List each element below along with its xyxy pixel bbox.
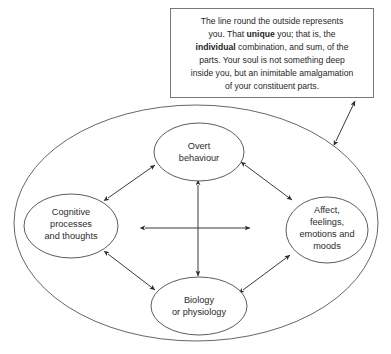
biopsychosocial-diagram: Overt behaviour Cognitive processes and … (0, 0, 391, 354)
callout-line-2-pre: you. That (209, 29, 247, 39)
node-affect-feelings-line3: emotions and (299, 229, 354, 239)
callout-line-5: inside you, but an inimitable amalgamati… (191, 68, 354, 78)
callout-line-1: The line round the outside represents (201, 16, 343, 26)
callout-line-4: parts. Your soul is not something deep (199, 55, 345, 65)
node-affect-feelings-line2: feelings, (310, 217, 344, 227)
callout-emphasis-unique: unique (247, 29, 275, 39)
node-affect-feelings-line1: Affect, (314, 205, 340, 215)
node-cognitive-processes[interactable]: Cognitive processes and thoughts (24, 194, 118, 258)
node-affect-feelings[interactable]: Affect, feelings, emotions and moods (286, 197, 368, 263)
callout-line-6: of your constituent parts. (225, 81, 319, 91)
connector-cognitive-overt (108, 165, 155, 198)
connector-cognitive-biology (108, 254, 155, 290)
node-cognitive-processes-line1: Cognitive (52, 207, 90, 217)
callout-box: The line round the outside represents yo… (171, 9, 374, 98)
node-overt-behaviour-line2: behaviour (179, 153, 219, 163)
node-cognitive-processes-line3: and thoughts (44, 231, 98, 241)
node-biology-physiology-line2: or physiology (172, 307, 227, 317)
node-biology-physiology[interactable]: Biology or physiology (151, 277, 247, 335)
callout-pointer-arrow (336, 101, 355, 141)
node-cognitive-processes-line2: processes (50, 219, 92, 229)
diagram-canvas: Overt behaviour Cognitive processes and … (0, 0, 391, 354)
connector-overt-affect (245, 165, 292, 200)
node-overt-behaviour-ellipse (154, 123, 244, 181)
callout-line-3-post: combination, and sum, of the (236, 42, 349, 52)
node-overt-behaviour[interactable]: Overt behaviour (154, 123, 244, 181)
node-biology-physiology-ellipse (151, 277, 247, 335)
connector-biology-affect (243, 255, 290, 290)
node-biology-physiology-line1: Biology (184, 295, 215, 305)
node-overt-behaviour-line1: Overt (188, 141, 211, 151)
callout-line-2-post: you; that is, the (275, 29, 336, 39)
callout-line-3: individual combination, and sum, of the (196, 42, 349, 52)
callout-emphasis-individual: individual (196, 42, 236, 52)
node-affect-feelings-line4: moods (313, 241, 341, 251)
callout-line-2: you. That unique you; that is, the (209, 29, 336, 39)
